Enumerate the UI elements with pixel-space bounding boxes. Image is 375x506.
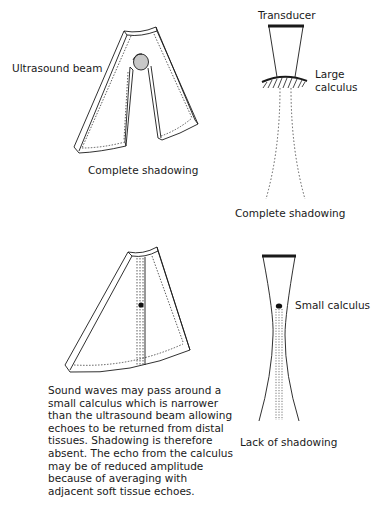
- transducer-large-calculus-diagram: [262, 26, 307, 199]
- beam-small-calculus-diagram: [65, 247, 190, 372]
- explanation-line: adjacent soft tissue echoes.: [48, 485, 238, 498]
- beam-with-shadow-diagram: [74, 27, 198, 153]
- explanation-line: than the ultrasound beam allowing: [48, 409, 238, 422]
- ultrasound-beam-label: Ultrasound beam: [12, 62, 102, 75]
- explanation-line: absent. The echo from the calculus: [48, 447, 238, 460]
- large-calculus-arc: [262, 77, 307, 82]
- explanation-line: may be of reduced amplitude: [48, 460, 238, 473]
- explanation-line: Sound waves may pass around a: [48, 384, 238, 397]
- explanation-line: small calculus which is narrower: [48, 397, 238, 410]
- small-calculus-dot: [138, 302, 143, 307]
- explanation-paragraph: Sound waves may pass around a small calc…: [48, 384, 238, 497]
- small-calculus-label: Small calculus: [295, 299, 370, 312]
- transducer-label: Transducer: [258, 9, 316, 22]
- large-calculus-label-line1: Large: [315, 68, 345, 81]
- small-calculus-dot: [276, 303, 282, 308]
- complete-shadowing-caption-right: Complete shadowing: [235, 207, 345, 220]
- explanation-line: tissues. Shadowing is therefore: [48, 434, 238, 447]
- explanation-line: echoes to be returned from distal: [48, 422, 238, 435]
- complete-shadowing-caption-left: Complete shadowing: [88, 164, 198, 177]
- lack-of-shadowing-caption: Lack of shadowing: [240, 436, 337, 449]
- large-calculus-label-line2: calculus: [315, 81, 358, 94]
- transducer-small-calculus-diagram: [259, 256, 299, 421]
- explanation-line: because of averaging with: [48, 472, 238, 485]
